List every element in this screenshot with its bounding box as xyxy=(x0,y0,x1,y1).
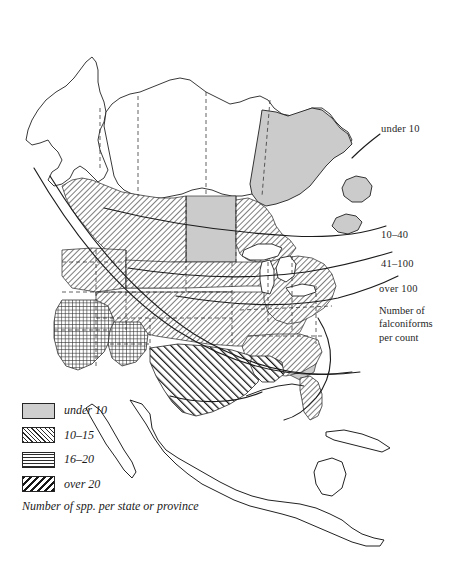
legend-swatch-16-20 xyxy=(22,452,55,468)
region-newfoundland xyxy=(342,176,372,202)
legend-label-under-10: under 10 xyxy=(64,403,107,418)
count-caption-line-1: Number of xyxy=(379,304,453,317)
legend-caption: Number of spp. per state or province xyxy=(22,499,199,514)
legend-label-over-20: over 20 xyxy=(64,477,100,492)
region-saskatchewan-manitoba xyxy=(186,196,236,262)
isoline-label-41-100: 41–100 xyxy=(381,258,414,269)
legend-item-under-10: under 10 xyxy=(22,402,222,419)
legend-swatch-10-15 xyxy=(22,427,55,443)
legend-label-16-20: 16–20 xyxy=(64,452,94,467)
legend-swatch-under-10 xyxy=(22,403,55,419)
map-figure: under 10 10–40 41–100 over 100 Number of… xyxy=(0,0,453,568)
isoline-label-under-10: under 10 xyxy=(381,123,420,134)
count-caption-line-3: per count xyxy=(379,331,453,344)
legend-label-10-15: 10–15 xyxy=(64,428,94,443)
legend-item-over-20: over 20 xyxy=(22,476,222,493)
legend-swatch-over-20 xyxy=(22,476,55,492)
legend-item-16-20: 16–20 xyxy=(22,451,222,468)
isoline-label-10-40: 10–40 xyxy=(381,229,408,240)
legend-item-10-15: 10–15 xyxy=(22,427,222,444)
isoline-label-over-100: over 100 xyxy=(379,283,418,294)
lake-michigan xyxy=(260,260,274,294)
count-caption-line-2: falconiforms xyxy=(379,317,453,330)
count-caption: Number of falconiforms per count xyxy=(379,304,453,344)
region-northern-plains xyxy=(126,260,268,288)
map-legend: under 10 10–15 16–20 over 20 xyxy=(22,402,222,500)
